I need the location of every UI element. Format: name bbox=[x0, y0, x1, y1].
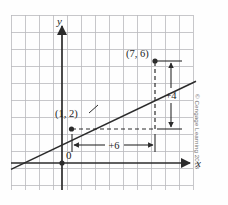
point-7-6 bbox=[152, 58, 157, 63]
point-origin bbox=[59, 160, 64, 165]
point-1-2 bbox=[69, 126, 74, 131]
copyright-notice: © Cengage Learning 2013 bbox=[194, 94, 201, 184]
y-axis-label: y bbox=[56, 15, 62, 27]
run-annotation-label: +6 bbox=[108, 140, 119, 151]
point-label-7-6: (7, 6) bbox=[126, 48, 149, 60]
dashed-guides bbox=[72, 61, 155, 129]
label-leader-1-2 bbox=[89, 105, 98, 113]
origin-label: 0 bbox=[66, 149, 72, 161]
coordinate-graph-figure: y x 0 (1, 2) (7, 6) +6 +4 © Cengage Lear… bbox=[0, 0, 228, 205]
axes bbox=[11, 26, 190, 190]
rise-annotation-label: +4 bbox=[165, 90, 177, 101]
point-label-1-2: (1, 2) bbox=[55, 108, 78, 120]
